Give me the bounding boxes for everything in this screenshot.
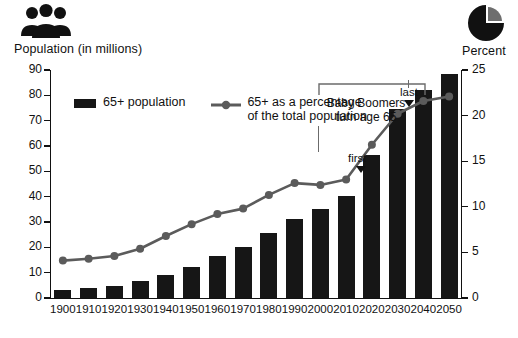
right-axis-tick-label: 20 bbox=[472, 108, 498, 122]
line-data-point bbox=[265, 191, 273, 199]
line-data-point bbox=[110, 252, 118, 260]
annotation-line2: turn age 65 bbox=[336, 110, 397, 124]
line-data-point bbox=[85, 255, 93, 263]
right-axis-tick-label: 10 bbox=[472, 199, 498, 213]
right-axis-tick bbox=[462, 161, 468, 162]
line-data-point bbox=[239, 205, 247, 213]
last-marker-arrow bbox=[404, 100, 414, 107]
pie-chart-icon bbox=[466, 3, 506, 43]
left-axis-tick-label: 90 bbox=[16, 62, 42, 76]
line-data-point bbox=[342, 175, 350, 183]
left-axis-tick-label: 60 bbox=[16, 138, 42, 152]
left-axis-tick-label: 70 bbox=[16, 113, 42, 127]
left-axis-tick-label: 10 bbox=[16, 265, 42, 279]
right-axis-tick bbox=[462, 206, 468, 207]
x-axis-tick-label: 2050 bbox=[429, 303, 469, 315]
left-axis-title: Population (in millions) bbox=[14, 42, 142, 56]
legend-bar-swatch bbox=[74, 99, 96, 108]
right-axis-tick-label: 0 bbox=[472, 290, 498, 304]
annotation-last-stem bbox=[408, 80, 409, 88]
line-data-point bbox=[59, 257, 67, 265]
legend-item-bar: 65+ population bbox=[74, 95, 185, 109]
right-axis-title: Percent bbox=[462, 44, 506, 58]
first-marker-arrow bbox=[356, 166, 366, 173]
left-axis-tick-label: 20 bbox=[16, 239, 42, 253]
chart-canvas: Population (in millions) Percent 0102030… bbox=[0, 0, 518, 338]
left-axis-tick-label: 80 bbox=[16, 87, 42, 101]
line-data-point bbox=[213, 210, 221, 218]
line-data-point bbox=[162, 232, 170, 240]
left-axis-tick-label: 0 bbox=[16, 290, 42, 304]
line-data-point bbox=[188, 220, 196, 228]
legend-bar-label: 65+ population bbox=[103, 95, 185, 109]
left-axis-tick-label: 50 bbox=[16, 163, 42, 177]
right-axis-tick bbox=[462, 252, 468, 253]
first-marker-label: first bbox=[348, 152, 367, 164]
line-data-point bbox=[368, 141, 376, 149]
right-axis-tick-label: 15 bbox=[472, 153, 498, 167]
legend-line-marker bbox=[211, 97, 241, 110]
x-axis-line bbox=[50, 298, 462, 299]
left-axis-tick-label: 30 bbox=[16, 214, 42, 228]
people-group-icon bbox=[18, 3, 74, 39]
right-axis-tick bbox=[462, 69, 468, 70]
left-axis-tick-label: 40 bbox=[16, 189, 42, 203]
line-data-point bbox=[291, 179, 299, 187]
line-data-point bbox=[316, 181, 324, 189]
right-axis-tick-label: 25 bbox=[472, 62, 498, 76]
annotation-first-stem bbox=[318, 126, 319, 152]
line-data-point bbox=[136, 245, 144, 253]
right-axis-tick bbox=[462, 297, 468, 298]
annotation-line1: Baby Boomers bbox=[327, 96, 406, 110]
line-data-point bbox=[445, 92, 453, 100]
right-axis-tick-label: 5 bbox=[472, 244, 498, 258]
right-axis-tick bbox=[462, 115, 468, 116]
